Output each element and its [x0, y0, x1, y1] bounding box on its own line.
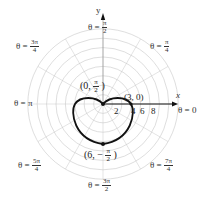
- angle-label-pi-2: θ = π2: [88, 20, 107, 36]
- point-bottom: [101, 142, 105, 146]
- point-label-right: (3, 0): [124, 92, 144, 102]
- point-label-top: (0, π2 ): [80, 79, 105, 95]
- angle-label-pi-4: θ = π4: [150, 39, 169, 55]
- angle-label-3pi-2: θ = 3π2: [88, 178, 111, 194]
- x-axis-label: x: [176, 91, 180, 100]
- angle-label-7pi-4: θ = 7π4: [150, 158, 173, 174]
- radial-tick-4: 4: [131, 106, 136, 116]
- angle-label-pi: θ = π: [14, 99, 32, 108]
- y-axis-label: y: [96, 6, 101, 15]
- angle-label-5pi-4: θ = 5π4: [18, 158, 41, 174]
- point-label-bottom: (6, − π2 ): [84, 148, 117, 164]
- radial-tick-8: 8: [151, 106, 156, 116]
- point-pole: [101, 102, 105, 106]
- radial-tick-2: 2: [114, 106, 119, 116]
- angle-label-3pi-4: θ = 3π4: [16, 39, 39, 55]
- angle-label-0: θ = 0: [178, 106, 196, 115]
- radial-tick-6: 6: [140, 106, 145, 116]
